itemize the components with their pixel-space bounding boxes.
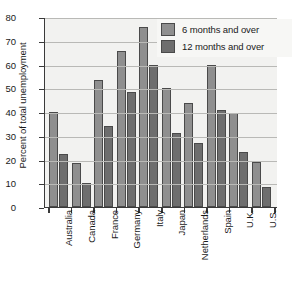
legend-item-6-months: 6 months and over [157,21,292,38]
y-axis-tick-label: 70 [0,36,16,47]
x-axis-tick-label: Japan [176,210,187,235]
x-axis-tick-label: Netherlands [199,210,210,260]
x-axis-tick-label: U.S. [267,210,278,228]
y-axis-tick-mark [39,66,44,67]
bar [262,187,271,207]
legend-swatch-icon [161,40,175,53]
bar [104,126,113,207]
y-axis-tick-mark [39,18,44,19]
y-axis-tick-label: 40 [0,107,16,118]
gridline [45,184,277,185]
legend-item-label: 12 months and over [182,41,264,52]
x-axis-tick-label: Spain [222,210,233,234]
bar [82,183,91,207]
y-axis-tick-mark [39,137,44,138]
x-axis-tick-label: Canada [86,210,97,243]
x-axis-tick-labels: AustraliaCanadaFranceGermanyItalyJapanNe… [44,210,277,290]
x-axis-tick-label: Germany [131,210,142,248]
bar [162,88,171,207]
bar [94,80,103,207]
bar [184,103,193,208]
y-axis-tick-mark [39,89,44,90]
legend: 6 months and over 12 months and over [157,19,292,57]
y-axis-tick-label: 0 [0,202,16,213]
bar [149,65,158,208]
gridline [45,113,277,114]
y-axis-tick-label: 30 [0,131,16,142]
gridline [45,161,277,162]
bar [207,65,216,208]
y-axis-title: Percent of total unemployment [17,11,28,201]
legend-item-label: 6 months and over [182,24,259,35]
gridline [45,137,277,138]
gridline [45,89,277,90]
y-axis-tick-label: 50 [0,83,16,94]
bar [49,112,58,207]
bar [127,92,136,207]
x-axis-tick-label: France [109,210,120,239]
bar [217,110,226,207]
bar [59,154,68,207]
y-axis-tick-label: 20 [0,155,16,166]
y-axis-tick-mark [39,184,44,185]
y-axis-tick-mark [39,161,44,162]
x-axis-tick-label: Italy [154,210,165,227]
legend-swatch-icon [161,23,175,36]
gridline [45,66,277,67]
bar [194,143,203,207]
bar [139,27,148,208]
bar-chart: Percent of total unemployment 0102030405… [0,0,297,291]
bar [172,133,181,207]
y-axis-tick-label: 10 [0,178,16,189]
legend-item-12-months: 12 months and over [157,38,292,55]
y-axis-tick-mark [39,113,44,114]
x-axis-tick-label: U.K. [244,210,255,228]
y-axis-tick-label: 60 [0,60,16,71]
y-axis-tick-label: 80 [0,12,16,23]
x-axis-tick-label: Australia [63,210,74,246]
y-axis-tick-mark [39,42,44,43]
